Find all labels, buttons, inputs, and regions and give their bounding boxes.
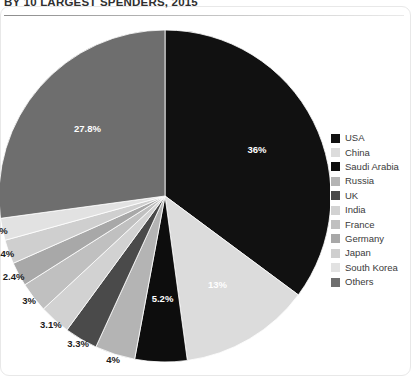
- legend-item-label: China: [345, 148, 370, 158]
- legend-swatch-icon: [331, 206, 340, 215]
- legend-item[interactable]: Saudi Arabia: [331, 160, 411, 174]
- legend-swatch-icon: [331, 134, 340, 143]
- legend-item-label: South Korea: [345, 263, 398, 273]
- legend-swatch-icon: [331, 191, 340, 200]
- pie-chart-svg: 36%13%5.2%4%3.3%3.1%3%2.4%2.4%2.2%27.8%: [0, 20, 330, 375]
- legend-item[interactable]: India: [331, 203, 411, 217]
- legend-item-label: Others: [345, 277, 374, 287]
- title-divider: [4, 15, 404, 16]
- legend-item[interactable]: Germany: [331, 232, 411, 246]
- pie-slice-label: 13%: [208, 279, 228, 290]
- legend-swatch-icon: [331, 234, 340, 243]
- pie-slice-label: 2.4%: [0, 248, 15, 259]
- page-title: BY 10 LARGEST SPENDERS, 2015: [4, 0, 334, 8]
- pie-slice-label: 2.4%: [3, 271, 25, 282]
- legend-item-label: Russia: [345, 176, 374, 186]
- chart-page: BY 10 LARGEST SPENDERS, 2015 36%13%5.2%4…: [0, 0, 413, 383]
- pie-slice-label: 3.3%: [67, 338, 89, 349]
- pie-slice-label: 3.1%: [40, 319, 62, 330]
- pie-slice-label: 27.8%: [74, 123, 101, 134]
- legend-item-label: Saudi Arabia: [345, 162, 399, 172]
- legend-swatch-icon: [331, 162, 340, 171]
- pie-chart-plot: 36%13%5.2%4%3.3%3.1%3%2.4%2.4%2.2%27.8%: [0, 20, 330, 375]
- legend-item-label: USA: [345, 133, 365, 143]
- pie-slice-label: 5.2%: [152, 293, 174, 304]
- legend-item[interactable]: South Korea: [331, 261, 411, 275]
- legend-item[interactable]: China: [331, 145, 411, 159]
- pie-slice-label: 36%: [247, 144, 267, 155]
- legend-swatch-icon: [331, 148, 340, 157]
- legend-item-label: Germany: [345, 234, 384, 244]
- pie-slice-label: 4%: [106, 354, 120, 365]
- legend-swatch-icon: [331, 263, 340, 272]
- legend-item[interactable]: UK: [331, 189, 411, 203]
- legend-item[interactable]: Japan: [331, 246, 411, 260]
- pie-slice-label: 3%: [22, 295, 36, 306]
- legend-item[interactable]: Others: [331, 275, 411, 289]
- legend-item-label: India: [345, 205, 366, 215]
- legend-swatch-icon: [331, 278, 340, 287]
- legend-swatch-icon: [331, 249, 340, 258]
- legend-swatch-icon: [331, 177, 340, 186]
- legend-item-label: France: [345, 220, 375, 230]
- legend-swatch-icon: [331, 220, 340, 229]
- legend-item-label: UK: [345, 191, 358, 201]
- legend-item[interactable]: Russia: [331, 174, 411, 188]
- chart-legend: USAChinaSaudi ArabiaRussiaUKIndiaFranceG…: [331, 131, 411, 289]
- pie-slice-label: 2.2%: [0, 225, 8, 236]
- legend-item-label: Japan: [345, 248, 371, 258]
- legend-item[interactable]: USA: [331, 131, 411, 145]
- pie-slice-group: [0, 30, 330, 362]
- legend-item[interactable]: France: [331, 217, 411, 231]
